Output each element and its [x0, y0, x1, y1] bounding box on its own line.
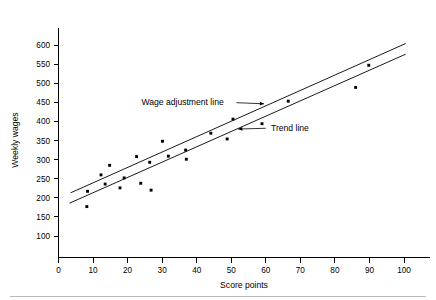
y-tick-label: 400: [36, 117, 50, 126]
y-tick-label: 300: [36, 156, 50, 165]
data-point: [209, 132, 212, 135]
data-point: [100, 173, 103, 176]
y-tick-label: 150: [36, 213, 50, 222]
annotation-trend-line: Trend line: [238, 123, 309, 133]
annotation-wage-adjustment-line: Wage adjustment line: [141, 97, 264, 107]
x-tick-label: 0: [56, 266, 61, 275]
x-axis-ticks: [59, 258, 405, 263]
x-tick-label: 30: [158, 266, 168, 275]
y-tick-label: 600: [36, 41, 50, 50]
data-point: [185, 158, 188, 161]
x-tick-label: 100: [397, 266, 411, 275]
scatter-points-group: [85, 64, 370, 208]
y-tick-label: 250: [36, 175, 50, 184]
x-tick-label: 70: [296, 266, 306, 275]
data-point: [85, 205, 88, 208]
x-axis-tick-labels: 0102030405060708090100: [56, 266, 411, 275]
axes: [59, 28, 431, 258]
y-tick-label: 100: [36, 232, 50, 241]
data-point: [104, 183, 107, 186]
y-tick-label: 200: [36, 194, 50, 203]
x-axis-title: Score points: [220, 280, 268, 290]
data-point: [135, 155, 138, 158]
annotation-arrowhead: [260, 102, 264, 106]
x-tick-label: 90: [365, 266, 375, 275]
data-point: [226, 138, 229, 141]
annotation-label: Wage adjustment line: [141, 97, 224, 107]
data-point: [86, 190, 89, 193]
data-point: [119, 186, 122, 189]
data-point: [108, 164, 111, 167]
y-tick-label: 550: [36, 60, 50, 69]
data-point: [184, 149, 187, 152]
data-point: [139, 182, 142, 185]
y-axis-ticks: [54, 45, 59, 236]
trend-line: [70, 54, 406, 203]
data-point: [167, 155, 170, 158]
wage-adjustment-line: [71, 43, 406, 192]
data-point: [161, 140, 164, 143]
x-tick-label: 10: [88, 266, 98, 275]
data-point: [150, 189, 153, 192]
data-point: [261, 122, 264, 125]
x-tick-label: 80: [330, 266, 340, 275]
x-tick-label: 40: [192, 266, 202, 275]
y-tick-label: 500: [36, 79, 50, 88]
chart-canvas: 100150200250300350400450500550600 010203…: [0, 0, 436, 300]
data-point: [148, 161, 151, 164]
y-axis-title: Weekly wages: [10, 112, 20, 167]
data-point: [354, 86, 357, 89]
y-axis-tick-labels: 100150200250300350400450500550600: [36, 41, 50, 241]
data-point: [367, 64, 370, 67]
data-point: [287, 100, 290, 103]
data-point: [123, 176, 126, 179]
scatter-chart: 100150200250300350400450500550600 010203…: [0, 0, 436, 300]
data-point: [232, 118, 235, 121]
fit-lines-group: [70, 43, 406, 203]
x-tick-label: 50: [227, 266, 237, 275]
x-tick-label: 60: [261, 266, 271, 275]
y-tick-label: 350: [36, 137, 50, 146]
annotation-label: Trend line: [271, 123, 309, 133]
y-tick-label: 450: [36, 98, 50, 107]
annotations-group: Wage adjustment lineTrend line: [141, 97, 309, 134]
x-tick-label: 20: [123, 266, 133, 275]
